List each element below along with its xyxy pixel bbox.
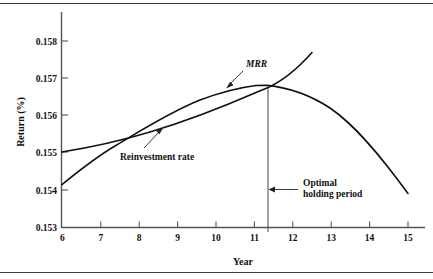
x-tick-label: 9: [175, 233, 180, 243]
optimal-holding-period-leader: [269, 186, 299, 192]
chart-canvas: 0.158 0.157 0.156 0.155 0.154 0.153 6 7 …: [0, 0, 433, 279]
y-tick-label: 0.157: [36, 74, 58, 84]
mrr-label: MRR: [245, 59, 267, 69]
y-tick-label: 0.153: [36, 223, 58, 233]
mrr-leader: [226, 71, 243, 89]
x-tick-label: 10: [211, 233, 221, 243]
y-tick-label: 0.155: [36, 148, 58, 158]
x-tick-label: 7: [98, 233, 103, 243]
figure-container: 0.158 0.157 0.156 0.155 0.154 0.153 6 7 …: [0, 0, 433, 279]
x-tick-label: 13: [326, 233, 336, 243]
reinvestment-rate-label: Reinvestment rate: [120, 152, 194, 162]
y-axis-ticks: [62, 41, 69, 190]
x-axis-title: Year: [233, 256, 254, 267]
x-tick-label: 11: [250, 233, 259, 243]
x-tick-label: 14: [365, 233, 375, 243]
series-reinvestment-rate-curve: [62, 53, 312, 153]
y-tick-label: 0.158: [36, 37, 58, 47]
optimal-holding-period-label-line1: Optimal: [303, 178, 337, 188]
y-axis-tick-labels: 0.158 0.157 0.156 0.155 0.154 0.153: [36, 37, 58, 233]
axis-lines: [62, 12, 426, 228]
y-tick-label: 0.156: [36, 111, 58, 121]
y-axis-title: Return (%): [15, 97, 27, 147]
x-axis-tick-labels: 6 7 8 9 10 11 12 13 14 15: [60, 233, 413, 243]
optimal-holding-period-label-line2: holding period: [303, 189, 363, 199]
x-tick-label: 15: [403, 233, 413, 243]
y-tick-label: 0.154: [36, 186, 58, 196]
x-tick-label: 8: [137, 233, 142, 243]
x-tick-label: 12: [288, 233, 298, 243]
x-axis-ticks: [101, 222, 408, 228]
x-tick-label: 6: [60, 233, 65, 243]
